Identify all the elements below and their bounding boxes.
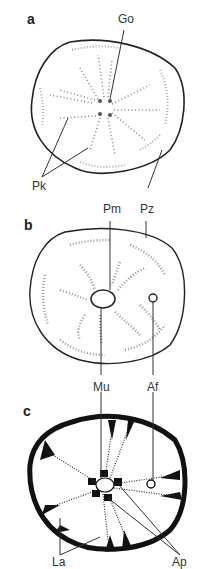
panel-a-letter: a — [27, 12, 35, 26]
label-ap: Ap — [172, 556, 187, 568]
panel-c-letter: c — [23, 404, 31, 418]
label-pm: Pm — [103, 203, 121, 215]
panel-b-letter: b — [24, 218, 33, 232]
label-af: Af — [147, 381, 158, 393]
label-la: La — [52, 556, 65, 568]
label-mu: Mu — [93, 381, 110, 393]
panel-a-drawing — [31, 30, 184, 188]
label-pk: Pk — [32, 180, 46, 192]
label-go: Go — [118, 13, 134, 25]
label-pz: Pz — [140, 203, 154, 215]
panel-b-drawing — [30, 221, 185, 375]
panel-c-drawing — [30, 392, 185, 555]
